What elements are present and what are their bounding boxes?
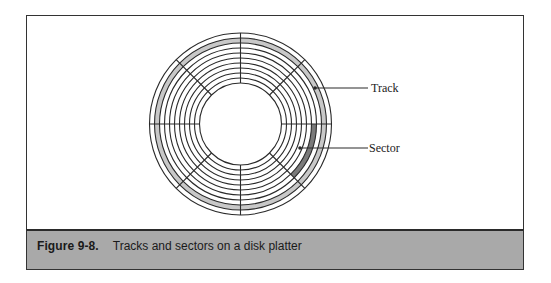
track-ring (200, 83, 282, 165)
disk-platter (150, 33, 332, 215)
track-label: Track (371, 81, 399, 95)
sector-label: Sector (369, 141, 400, 155)
sector-divider-line (269, 60, 304, 95)
figure-caption-bar: Figure 9-8. Tracks and sectors on a disk… (26, 229, 524, 270)
sector-divider-line (176, 60, 211, 95)
figure-number: Figure 9-8. (37, 239, 99, 253)
sector-divider-line (176, 153, 211, 188)
track-leader-dot (313, 86, 317, 90)
figure-caption: Tracks and sectors on a disk platter (113, 239, 302, 253)
sector-leader-dot (298, 146, 302, 150)
